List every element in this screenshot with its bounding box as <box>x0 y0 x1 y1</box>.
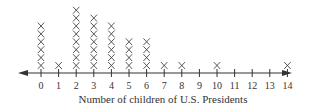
x-mark-icon <box>91 46 97 53</box>
x-mark-icon <box>126 54 132 61</box>
x-mark-icon <box>38 31 44 38</box>
x-axis-label: Number of children of U.S. Presidents <box>0 93 326 105</box>
x-mark-icon <box>108 54 114 61</box>
x-mark-icon <box>38 38 44 45</box>
tick-label: 5 <box>127 80 132 91</box>
x-mark-icon <box>91 15 97 22</box>
x-mark-icon <box>73 15 79 22</box>
tick-label: 10 <box>212 80 222 91</box>
tick-label: 7 <box>162 80 167 91</box>
x-mark-icon <box>143 54 149 61</box>
tick-label: 3 <box>91 80 96 91</box>
x-mark-icon <box>108 46 114 53</box>
tick-label: 8 <box>179 80 184 91</box>
x-mark-icon <box>91 23 97 30</box>
x-mark-icon <box>55 62 61 69</box>
tick-label: 6 <box>144 80 149 91</box>
tick-labels: 01234567891011121314 <box>39 80 293 91</box>
tick-label: 0 <box>39 80 44 91</box>
x-mark-icon <box>143 62 149 69</box>
x-mark-icon <box>126 46 132 53</box>
x-mark-icon <box>73 7 79 14</box>
tick-label: 13 <box>265 80 275 91</box>
x-mark-icon <box>73 31 79 38</box>
tick-label: 1 <box>56 80 61 91</box>
x-mark-icon <box>38 62 44 69</box>
x-mark-icon <box>126 62 132 69</box>
x-mark-icon <box>91 54 97 61</box>
x-marks <box>38 7 291 69</box>
x-mark-icon <box>161 62 167 69</box>
x-mark-icon <box>73 62 79 69</box>
x-mark-icon <box>91 62 97 69</box>
x-mark-icon <box>214 62 220 69</box>
x-mark-icon <box>108 62 114 69</box>
x-mark-icon <box>108 23 114 30</box>
left-arrow-icon <box>18 70 28 76</box>
x-mark-icon <box>91 31 97 38</box>
tick-label: 14 <box>282 80 292 91</box>
x-mark-icon <box>73 38 79 45</box>
x-mark-icon <box>73 54 79 61</box>
x-mark-icon <box>108 31 114 38</box>
x-mark-icon <box>38 54 44 61</box>
x-mark-icon <box>73 46 79 53</box>
x-mark-icon <box>126 38 132 45</box>
tick-label: 9 <box>197 80 202 91</box>
x-mark-icon <box>143 38 149 45</box>
tick-label: 12 <box>247 80 257 91</box>
x-mark-icon <box>91 38 97 45</box>
x-mark-icon <box>108 38 114 45</box>
x-mark-icon <box>38 23 44 30</box>
x-mark-icon <box>73 23 79 30</box>
x-mark-icon <box>38 46 44 53</box>
tick-label: 11 <box>230 80 240 91</box>
x-mark-icon <box>179 62 185 69</box>
x-mark-icon <box>143 46 149 53</box>
tick-label: 4 <box>109 80 114 91</box>
x-mark-icon <box>284 62 290 69</box>
tick-label: 2 <box>74 80 79 91</box>
